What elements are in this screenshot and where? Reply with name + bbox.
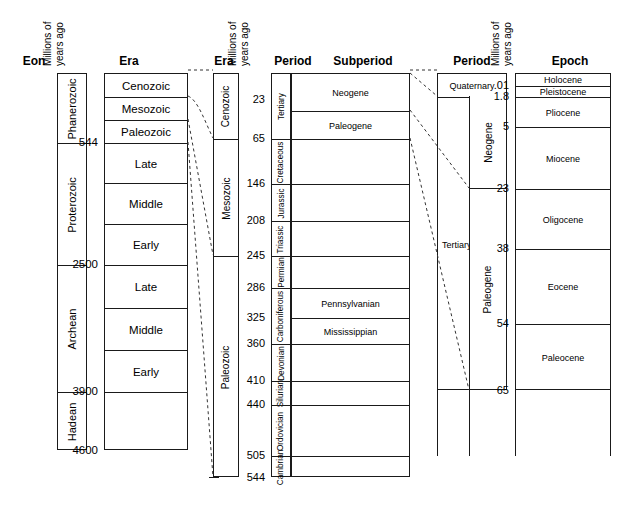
block2-period-cell-label: Triassic: [277, 225, 286, 253]
block3-subperiod-tail: [469, 390, 470, 456]
scale-tick: 1.8: [467, 90, 509, 102]
block3-epoch-cell: Paleocene: [516, 324, 610, 391]
scale-tick: 146: [223, 177, 265, 189]
block2-period-cell: Permian: [272, 256, 290, 288]
block1-eon-cell: Proterozoic: [58, 143, 86, 265]
scale-tick: 208: [223, 214, 265, 226]
block3-scale-header-line2: years ago: [502, 22, 513, 66]
scale-tick: 325: [223, 311, 265, 323]
block2-subperiod-cell: [292, 139, 409, 184]
block1-era-cell: Early: [105, 350, 187, 392]
block3-scale-header: Millions of years ago: [490, 20, 530, 66]
block3-subperiod-cell-label: Paleogene: [483, 266, 494, 314]
block1-eon-cell-label: Hadean: [66, 403, 78, 442]
block2-period-cells: TertiaryCretaceousJurassicTriassicPermia…: [272, 74, 290, 476]
block2-period-cell: Devonian: [272, 344, 290, 381]
block2-subperiod-cell: [292, 184, 409, 221]
block3-epoch-cell: Oligocene: [516, 189, 610, 249]
block1-era-column: CenozoicMesozoicPaleozoicLateMiddleEarly…: [104, 73, 188, 450]
block2-period-cell: Triassic: [272, 221, 290, 256]
scale-tick: 360: [223, 337, 265, 349]
scale-tick: 3900: [56, 385, 98, 397]
block1-era-cell: Late: [105, 143, 187, 183]
scale-tick: 4600: [56, 444, 98, 456]
block3-epoch-cell: Pliocene: [516, 97, 610, 127]
scale-tick: 23: [223, 93, 265, 105]
block2-subperiod-column: NeogenePaleogenePennsylvanianMississippi…: [291, 73, 410, 477]
block1-era-cell: Middle: [105, 308, 187, 350]
block1-eon-cell-label: Phanerozoic: [66, 78, 78, 139]
block1-eon-cell-label: Proterozoic: [66, 177, 78, 233]
scale-tick: 65: [223, 132, 265, 144]
scale-tick: 54: [467, 317, 509, 329]
block2-subperiod-cell: [292, 405, 409, 456]
block2-era-cell: Cenozoic: [214, 74, 238, 139]
scale-tick: 544: [223, 471, 265, 483]
block2-period-cell: Silurian: [272, 381, 290, 405]
block3-scale-header-line1: Millions of: [490, 22, 501, 66]
block1-scale-header-line1: Millions of: [42, 22, 53, 66]
block1-era-cell: Early: [105, 224, 187, 265]
block2-period-header: Period: [270, 54, 316, 68]
block1-era-cell: Cenozoic: [105, 74, 187, 97]
block2-subperiod-cell: [292, 221, 409, 256]
block1-era-header: Era: [70, 54, 188, 68]
block2-period-cell: Carboniferous: [272, 288, 290, 344]
scale-tick: 5: [467, 120, 509, 132]
block2-period-cell-label: Ordovician: [277, 411, 286, 450]
block2-era-cell: Mesozoic: [214, 139, 238, 256]
block3-period-tail: [437, 390, 438, 456]
scale-tick: 440: [223, 398, 265, 410]
block2-period-column: TertiaryCretaceousJurassicTriassicPermia…: [271, 73, 291, 477]
block2-subperiod-cell: Pennsylvanian: [292, 288, 409, 318]
block2-era-cell-label: Cenozoic: [221, 86, 232, 128]
block2-period-cell: Tertiary: [272, 74, 290, 139]
scale-tick: 245: [223, 249, 265, 261]
block1-scale-header-line2: years ago: [54, 22, 65, 66]
block2-scale-header-line1: Millions of: [227, 22, 238, 66]
block3-epoch-cell: Pleistocene: [516, 86, 610, 97]
block1-eon-cell: Archean: [58, 265, 86, 392]
block2-era-base-tick: [209, 477, 219, 478]
block2-subperiod-cell: [292, 456, 409, 478]
block1-eon-cell: Phanerozoic: [58, 74, 86, 143]
block3-epoch-cell: Holocene: [516, 74, 610, 86]
block2-period-cell-label: Jurassic: [277, 188, 286, 218]
block3-epoch-tail-left: [515, 390, 516, 456]
block2-subperiod-cells: NeogenePaleogenePennsylvanianMississippi…: [292, 74, 409, 476]
block1-eon-cell-label: Archean: [66, 309, 78, 350]
scale-tick: 23: [467, 182, 509, 194]
block3-epoch-tail-right: [610, 390, 611, 456]
scale-tick: 544: [56, 136, 98, 148]
block1-era-cell: Paleozoic: [105, 120, 187, 143]
block1-era-cell: [105, 392, 187, 451]
block2-subperiod-cell: [292, 256, 409, 288]
block3-epoch-cell: Miocene: [516, 127, 610, 189]
block3-epoch-column: HolocenePleistocenePlioceneMioceneOligoc…: [515, 73, 611, 390]
block2-subperiod-cell: Paleogene: [292, 111, 409, 139]
block2-period-cell-label: Carboniferous: [277, 291, 286, 342]
block2-period-cell-label: Permian: [277, 257, 286, 288]
block2-subperiod-cell: [292, 381, 409, 405]
geologic-time-scale-figure: Eon Millions of years ago Era Phanerozoi…: [0, 0, 619, 521]
block2-subperiod-header: Subperiod: [316, 54, 410, 68]
block2-period-cell-label: Devonian: [277, 346, 286, 381]
scale-tick: 410: [223, 374, 265, 386]
block2-period-cell: Cambrian: [272, 456, 290, 478]
block2-period-cell-label: Silurian: [277, 380, 286, 407]
block1-era-cell: Late: [105, 265, 187, 308]
block2-period-cell: Cretaceous: [272, 139, 290, 184]
block1-eon-cell: Hadean: [58, 392, 86, 451]
block2-scale-header-line2: years ago: [239, 22, 250, 66]
block2-subperiod-cell: [292, 344, 409, 381]
block3-epoch-header: Epoch: [530, 54, 610, 68]
scale-tick: 2500: [56, 258, 98, 270]
block2-period-cell-label: Cretaceous: [277, 141, 286, 183]
block2-scale-header: Millions of years ago: [227, 20, 267, 66]
block3-epoch-cell: Eocene: [516, 249, 610, 324]
block2-subperiod-cell: Neogene: [292, 74, 409, 111]
block3-subperiod-cell: Neogene: [470, 96, 506, 188]
block1-era-cell: Mesozoic: [105, 97, 187, 120]
scale-tick: 286: [223, 281, 265, 293]
block2-period-cell-label: Tertiary: [277, 93, 286, 120]
